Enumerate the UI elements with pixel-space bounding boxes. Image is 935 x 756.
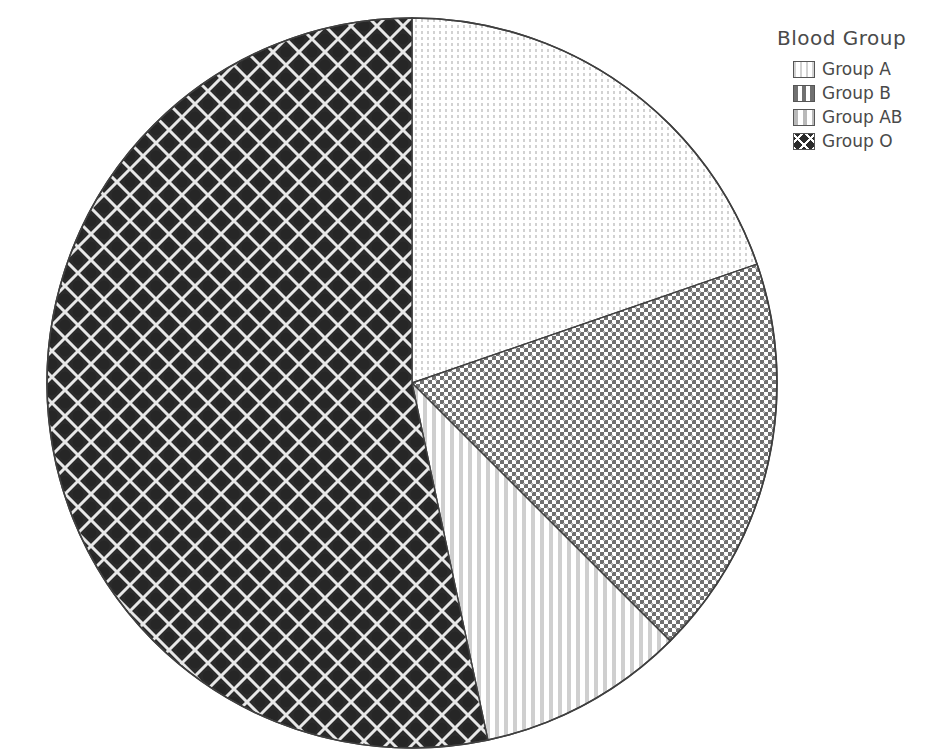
legend-item-group-a[interactable]: Group A bbox=[793, 60, 935, 79]
legend-label-group-a: Group A bbox=[822, 61, 891, 78]
legend: Blood Group Group A Group B Group AB Gro… bbox=[775, 26, 935, 156]
legend-swatch-group-a bbox=[793, 61, 815, 78]
legend-title: Blood Group bbox=[777, 26, 935, 50]
legend-label-group-b: Group B bbox=[822, 85, 891, 102]
legend-swatch-group-o bbox=[793, 133, 815, 150]
legend-item-group-o[interactable]: Group O bbox=[793, 132, 935, 151]
legend-swatch-group-ab bbox=[793, 109, 815, 126]
legend-label-group-o: Group O bbox=[822, 133, 893, 150]
pie-chart-figure: Blood Group Group A Group B Group AB Gro… bbox=[0, 0, 935, 756]
legend-item-group-ab[interactable]: Group AB bbox=[793, 108, 935, 127]
legend-label-group-ab: Group AB bbox=[822, 109, 902, 126]
legend-swatch-group-b bbox=[793, 85, 815, 102]
legend-item-group-b[interactable]: Group B bbox=[793, 84, 935, 103]
pie-slices-group bbox=[47, 18, 777, 748]
